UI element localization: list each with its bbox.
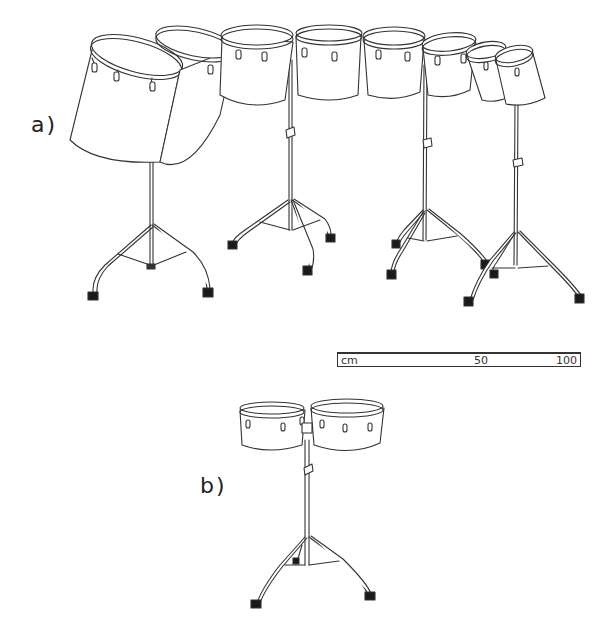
timbale-mount-clamp bbox=[302, 423, 312, 433]
drum-line-drawing bbox=[0, 0, 615, 634]
drum-a4 bbox=[296, 25, 362, 100]
timbale-b-left bbox=[240, 402, 305, 450]
scale-max-label: 100 bbox=[556, 354, 577, 367]
stand-a1 bbox=[88, 149, 213, 300]
panel-label-b: b) bbox=[200, 473, 227, 498]
drum-a6 bbox=[421, 30, 477, 96]
drum-a5 bbox=[363, 27, 425, 98]
stand-a4 bbox=[464, 100, 584, 306]
panel-label-a: a) bbox=[31, 112, 57, 137]
stand-b bbox=[251, 440, 375, 608]
timbale-b-right bbox=[311, 399, 384, 451]
scale-bar: cm 50 100 bbox=[337, 352, 581, 367]
scale-mid-label: 50 bbox=[474, 354, 488, 367]
illustration-figure: a) b) cm 50 100 bbox=[0, 0, 615, 634]
scale-unit-label: cm bbox=[341, 354, 358, 367]
drum-a3 bbox=[220, 25, 293, 105]
